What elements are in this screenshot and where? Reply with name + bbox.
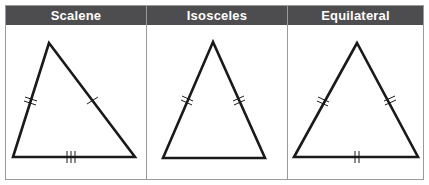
equilateral-triangle [294, 43, 418, 157]
scalene-right-tick-marks [87, 97, 98, 104]
scalene-triangle [13, 43, 135, 157]
isosceles-triangle [163, 42, 265, 158]
triangles-drawing [0, 0, 429, 185]
